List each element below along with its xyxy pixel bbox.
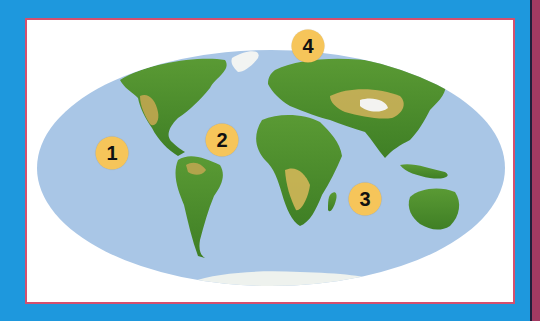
map-marker-3[interactable]: 3 (349, 183, 382, 216)
world-map (0, 0, 540, 321)
map-marker-2[interactable]: 2 (206, 124, 239, 157)
antarctica (190, 271, 380, 300)
map-marker-4[interactable]: 4 (292, 30, 325, 63)
map-marker-1[interactable]: 1 (96, 137, 129, 170)
